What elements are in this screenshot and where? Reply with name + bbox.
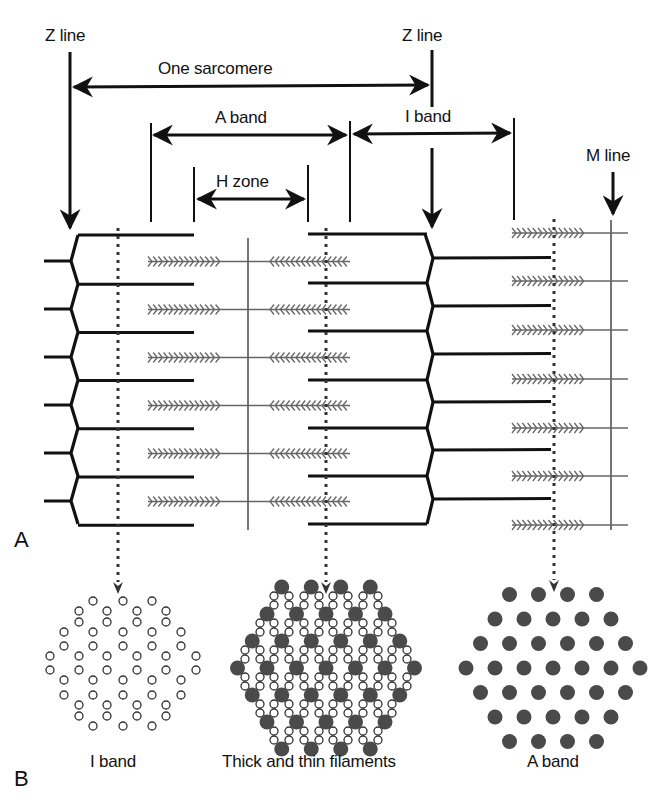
annotation-lines [70,50,613,228]
section-indicator-lines [113,219,559,594]
cross-section-label-i-band: I band [90,752,136,772]
sarcomere-diagram [0,0,665,806]
cross-section-label-a-band: A band [527,752,579,772]
h-zone-label: H zone [216,172,269,192]
thick-filaments-right [512,220,628,530]
panel-a-label: A [14,527,29,553]
a-band-label: A band [215,108,267,128]
i-band-label: I band [405,107,451,127]
z-line-left-label: Z line [45,26,85,46]
cross-section-thick-thin [230,580,422,757]
cross-section-a-band [459,587,648,749]
m-line-label: M line [586,146,630,166]
cross-section-i-band [46,597,200,730]
cross-section-label-thick-thin: Thick and thin filaments [222,752,396,772]
z-line-right-label: Z line [402,26,442,46]
panel-b-label: B [14,766,29,792]
one-sarcomere-label: One sarcomere [158,59,273,79]
